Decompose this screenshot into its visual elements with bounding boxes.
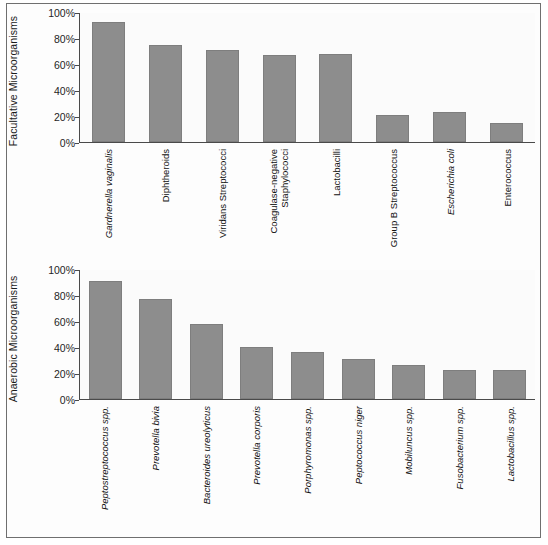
x-axis-label-slot: Prevotella bivia <box>138 402 171 530</box>
x-axis-labels-anaerobic: Peptostreptococcus spp.Prevotella biviaB… <box>79 402 535 530</box>
x-axis-label-slot: Escherichia coli <box>433 145 466 257</box>
x-axis-tick-label: Porphyromonas spp. <box>301 406 312 494</box>
y-axis-tick-label: 60% <box>29 316 75 328</box>
bar <box>443 370 476 399</box>
x-axis-labels-facultative: Gardnerella vaginalisDiphtheroidsViridan… <box>79 145 535 257</box>
plot-area-anaerobic <box>79 270 535 400</box>
y-axis-tick-label: 100% <box>29 7 75 19</box>
x-axis-label-slot: Peptostreptococcus spp. <box>88 402 121 530</box>
figure-frame: Facultative Microorganisms 0%20%40%60%80… <box>6 3 541 538</box>
bar <box>149 45 182 143</box>
y-axis-tick-label: 20% <box>29 368 75 380</box>
y-axis-tick-label: 40% <box>29 85 75 97</box>
y-axis-tick-label: 0% <box>29 394 75 406</box>
y-axis-tick-label: 100% <box>29 264 75 276</box>
x-axis-label-slot: Prevotella corporis <box>240 402 273 530</box>
bar <box>92 22 125 142</box>
x-axis-label-slot: Lactobacilli <box>319 145 352 257</box>
chart-panel-anaerobic: Anaerobic Microorganisms 0%20%40%60%80%1… <box>7 262 542 537</box>
bar-group-anaerobic <box>80 270 535 399</box>
bar <box>319 54 352 142</box>
y-axis-labels-anaerobic: 0%20%40%60%80%100% <box>7 270 75 400</box>
plot-area-facultative <box>79 13 535 143</box>
y-axis-tick-label: 80% <box>29 290 75 302</box>
bar <box>291 352 324 399</box>
x-axis-tick-label: Viridans Streptococci <box>216 149 227 238</box>
bar <box>206 50 239 142</box>
bar <box>139 299 172 399</box>
y-axis-tick-label: 60% <box>29 59 75 71</box>
x-axis-label-slot: Bacteroides ureolyticus <box>189 402 222 530</box>
bar <box>433 112 466 142</box>
y-axis-tick-label: 80% <box>29 33 75 45</box>
x-axis-tick-label: Group B Streptococcus <box>387 149 398 247</box>
x-axis-label-slot: Enterococcus <box>490 145 523 257</box>
bar-group-facultative <box>80 13 535 142</box>
x-axis-tick-label: Escherichia coli <box>444 149 455 215</box>
x-axis-label-slot: Porphyromonas spp. <box>290 402 323 530</box>
bar <box>376 115 409 142</box>
x-axis-label-slot: Mobiluncus spp. <box>392 402 425 530</box>
chart-panel-facultative: Facultative Microorganisms 0%20%40%60%80… <box>7 4 542 262</box>
bar <box>263 55 296 142</box>
x-axis-label-slot: Gardnerella vaginalis <box>91 145 124 257</box>
bar <box>240 347 273 399</box>
x-axis-tick-label: Mobiluncus spp. <box>403 406 414 475</box>
x-axis-label-slot: Fusobacterium spp. <box>442 402 475 530</box>
y-axis-tick-mark <box>75 400 79 401</box>
x-axis-tick-label: Prevotella corporis <box>251 406 262 485</box>
x-axis-tick-label: Peptococcus niger <box>352 406 363 484</box>
x-axis-tick-label: Lactobacillus spp. <box>504 406 515 482</box>
x-axis-tick-label: Diphtheroids <box>159 149 170 202</box>
x-axis-label-slot: Viridans Streptococci <box>205 145 238 257</box>
bar <box>342 359 375 399</box>
y-axis-tick-mark <box>75 143 79 144</box>
x-axis-tick-label: Enterococcus <box>501 149 512 207</box>
x-axis-tick-label: Coagulase-negativeStaphylococci <box>268 149 290 257</box>
bar <box>490 123 523 143</box>
x-axis-tick-label: Peptostreptococcus spp. <box>99 406 110 510</box>
bar <box>493 370 526 399</box>
y-axis-tick-label: 40% <box>29 342 75 354</box>
bar <box>89 281 122 399</box>
bar <box>190 324 223 399</box>
x-axis-tick-label: Bacteroides ureolyticus <box>200 406 211 504</box>
x-axis-label-slot: Diphtheroids <box>148 145 181 257</box>
y-axis-labels-facultative: 0%20%40%60%80%100% <box>7 13 75 143</box>
x-axis-tick-label: Lactobacilli <box>330 149 341 196</box>
x-axis-tick-label: Gardnerella vaginalis <box>102 149 113 238</box>
x-axis-label-slot: Lactobacillus spp. <box>493 402 526 530</box>
x-axis-tick-label: Fusobacterium spp. <box>453 406 464 489</box>
y-axis-tick-label: 0% <box>29 137 75 149</box>
bar <box>392 365 425 399</box>
x-axis-label-slot: Group B Streptococcus <box>376 145 409 257</box>
y-axis-tick-label: 20% <box>29 111 75 123</box>
x-axis-label-slot: Coagulase-negativeStaphylococci <box>262 145 295 257</box>
x-axis-tick-label: Prevotella bivia <box>149 406 160 470</box>
x-axis-label-slot: Peptococcus niger <box>341 402 374 530</box>
